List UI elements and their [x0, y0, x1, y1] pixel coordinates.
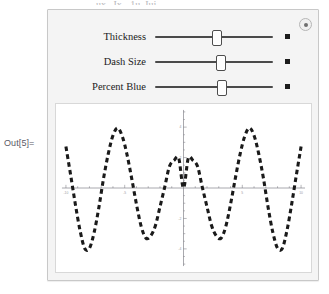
manipulate-controls: Thickness Dash Size Percent Blue	[48, 26, 318, 101]
control-label-thickness: Thickness	[48, 31, 155, 42]
output-cell-label: Out[5]=	[4, 138, 34, 148]
slider-thumb-thickness[interactable]	[212, 30, 222, 46]
plot-svg: -10-5510-4-224	[56, 104, 311, 272]
slider-percent-blue[interactable]	[155, 79, 273, 95]
svg-text:-2: -2	[178, 217, 181, 221]
control-row-percent-blue: Percent Blue	[48, 76, 318, 97]
control-label-percent-blue: Percent Blue	[48, 81, 155, 92]
svg-text:5: 5	[241, 191, 243, 195]
svg-text:10: 10	[299, 191, 303, 195]
manipulate-panel: Thickness Dash Size Percent Blue	[47, 9, 319, 281]
svg-text:-10: -10	[63, 191, 68, 195]
control-row-thickness: Thickness	[48, 26, 318, 47]
clipped-previous-cell-text: ux , Ix, -1u, Iuj	[96, 0, 296, 5]
slider-track-dash-size	[155, 61, 273, 63]
play-square-icon-thickness[interactable]	[285, 34, 290, 39]
control-label-dash-size: Dash Size	[48, 56, 155, 67]
plot-axes	[62, 110, 305, 266]
plot-panel: -10-5510-4-224	[55, 103, 312, 273]
slider-dash-size[interactable]	[155, 54, 273, 70]
play-square-icon-dash-size[interactable]	[285, 59, 290, 64]
slider-thickness[interactable]	[155, 29, 273, 45]
slider-track-percent-blue	[155, 86, 273, 88]
play-square-icon-percent-blue[interactable]	[285, 84, 290, 89]
svg-text:-4: -4	[178, 247, 181, 251]
svg-text:-5: -5	[123, 191, 126, 195]
slider-thumb-dash-size[interactable]	[216, 55, 226, 71]
svg-text:4: 4	[179, 125, 181, 129]
control-row-dash-size: Dash Size	[48, 51, 318, 72]
slider-thumb-percent-blue[interactable]	[217, 80, 227, 96]
